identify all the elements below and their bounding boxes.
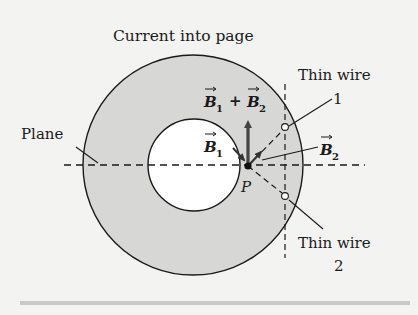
current-distribution-diagram: Current into page Plane Thin wire 1 Thin… (0, 0, 418, 315)
svg-text:2: 2 (259, 103, 266, 114)
svg-text:1: 1 (216, 148, 223, 159)
thin-wire-1-number: 1 (333, 90, 343, 108)
thin-wire-1-label: Thin wire (298, 66, 371, 84)
thin-wire-2-number: 2 (334, 257, 344, 275)
b2-label: B 2 (319, 135, 339, 162)
svg-text:B: B (246, 93, 260, 111)
svg-text:B: B (319, 141, 333, 159)
point-p-dot (244, 162, 251, 169)
footer-divider-bar (20, 301, 410, 305)
svg-text:B: B (203, 93, 217, 111)
plane-label: Plane (21, 125, 63, 143)
thin-wire-2-label: Thin wire (298, 234, 371, 252)
svg-text:+: + (229, 92, 242, 110)
svg-text:B: B (203, 138, 217, 156)
wire1-leader-line (289, 99, 332, 126)
thin-wire-1-marker (282, 124, 289, 131)
svg-text:2: 2 (332, 151, 339, 162)
svg-text:1: 1 (216, 103, 223, 114)
thin-wire-2-marker (282, 193, 289, 200)
point-p-label: P (240, 178, 252, 196)
figure-title: Current into page (113, 27, 254, 45)
wire2-leader-line (289, 200, 323, 229)
